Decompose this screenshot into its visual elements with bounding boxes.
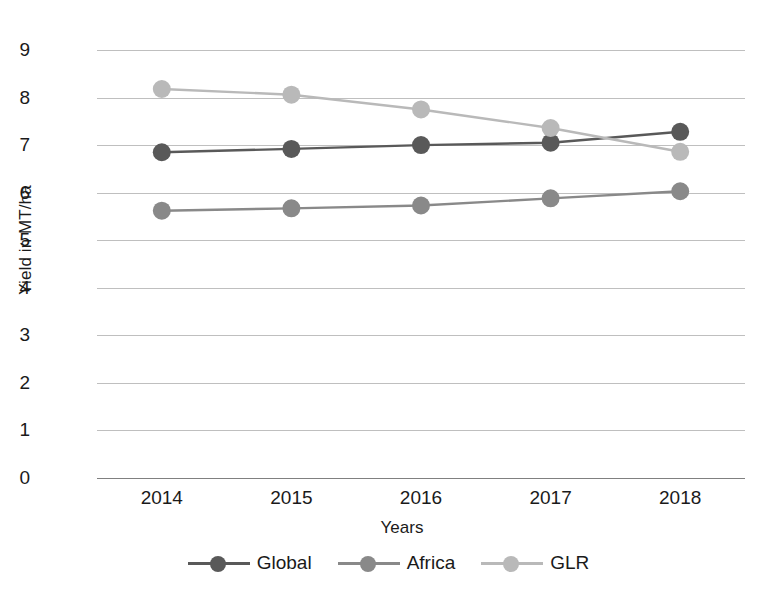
- data-point-africa-2018: [671, 182, 689, 200]
- x-axis-title: Years: [52, 518, 752, 538]
- legend-item-global[interactable]: Global: [188, 552, 312, 574]
- data-point-glr-2016: [412, 100, 430, 118]
- series-global: [153, 123, 689, 161]
- data-point-glr-2015: [282, 86, 300, 104]
- data-point-glr-2014: [153, 80, 171, 98]
- x-axis-title-text: Years: [381, 518, 424, 537]
- legend-item-africa[interactable]: Africa: [338, 552, 456, 574]
- data-point-global-2016: [412, 136, 430, 154]
- legend-swatch-global-icon: [188, 554, 250, 572]
- data-point-africa-2017: [542, 189, 560, 207]
- data-point-global-2014: [153, 143, 171, 161]
- legend-swatch-africa-icon: [338, 554, 400, 572]
- legend-dot-icon: [210, 556, 226, 572]
- data-point-global-2015: [282, 140, 300, 158]
- line-chart: Yield in MT/ha 9876543210 20142015201620…: [0, 0, 777, 614]
- series-africa: [153, 182, 689, 219]
- data-point-global-2018: [671, 123, 689, 141]
- data-point-glr-2018: [671, 143, 689, 161]
- data-point-africa-2016: [412, 197, 430, 215]
- chart-legend: GlobalAfricaGLR: [0, 552, 777, 574]
- legend-dot-icon: [503, 556, 519, 572]
- legend-label: Africa: [407, 552, 456, 574]
- legend-item-glr[interactable]: GLR: [481, 552, 589, 574]
- data-point-glr-2017: [542, 119, 560, 137]
- legend-label: GLR: [550, 552, 589, 574]
- legend-label: Global: [257, 552, 312, 574]
- data-point-africa-2015: [282, 199, 300, 217]
- legend-dot-icon: [360, 556, 376, 572]
- data-point-africa-2014: [153, 202, 171, 220]
- legend-swatch-glr-icon: [481, 554, 543, 572]
